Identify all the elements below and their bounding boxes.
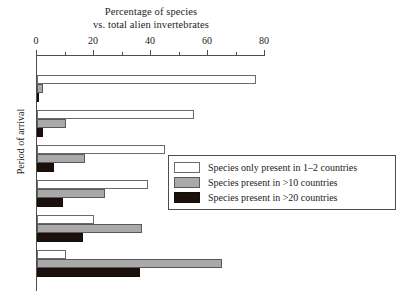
- bar-group: [37, 250, 265, 277]
- chart-title-line-2: vs. total alien invertebrates: [36, 19, 266, 32]
- bar-group: [37, 215, 265, 242]
- bar: [37, 110, 194, 119]
- legend-item[interactable]: Species present in >20 countries: [174, 190, 390, 205]
- bar-group: [37, 110, 265, 137]
- bar: [37, 84, 43, 93]
- x-tick-major: [93, 50, 94, 56]
- bar: [37, 233, 83, 242]
- x-tick-major: [150, 50, 151, 56]
- chart-title: Percentage of species vs. total alien in…: [36, 6, 266, 31]
- legend-item[interactable]: Species present in >10 countries: [174, 175, 390, 190]
- bar: [37, 268, 140, 277]
- bar: [37, 145, 165, 154]
- legend-swatch-icon: [174, 177, 200, 188]
- bar: [37, 224, 142, 233]
- bar: [37, 180, 148, 189]
- bar: [37, 215, 94, 224]
- x-tick-minor: [65, 52, 66, 55]
- bar-group: [37, 75, 265, 102]
- x-tick-label: 20: [88, 35, 98, 46]
- bar: [37, 198, 63, 207]
- x-tick-label: 60: [202, 35, 212, 46]
- bar: [37, 128, 43, 137]
- chart-legend: Species only present in 1–2 countriesSpe…: [168, 155, 396, 210]
- x-tick-label: 80: [259, 35, 269, 46]
- legend-item[interactable]: Species only present in 1–2 countries: [174, 160, 390, 175]
- bar: [37, 154, 85, 163]
- bar: [37, 75, 256, 84]
- bar: [37, 163, 54, 172]
- x-tick-label: 40: [145, 35, 155, 46]
- bar-chart: Percentage of species vs. total alien in…: [0, 0, 406, 308]
- bar: [37, 189, 105, 198]
- y-axis-title: Period of arrival: [15, 82, 26, 202]
- x-tick-minor: [122, 52, 123, 55]
- x-tick-minor: [236, 52, 237, 55]
- x-tick-major: [264, 50, 265, 56]
- legend-swatch-icon: [174, 162, 200, 173]
- bar: [37, 250, 66, 259]
- bar: [37, 259, 222, 268]
- x-tick-major: [36, 50, 37, 56]
- chart-title-line-1: Percentage of species: [36, 6, 266, 19]
- x-tick-major: [207, 50, 208, 56]
- legend-label: Species present in >10 countries: [208, 177, 338, 188]
- x-tick-label: 0: [34, 35, 39, 46]
- x-tick-minor: [179, 52, 180, 55]
- legend-swatch-icon: [174, 192, 200, 203]
- legend-label: Species present in >20 countries: [208, 192, 338, 203]
- bar: [37, 119, 66, 128]
- bar: [37, 93, 39, 102]
- legend-label: Species only present in 1–2 countries: [208, 162, 357, 173]
